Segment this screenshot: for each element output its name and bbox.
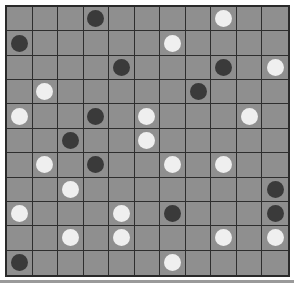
board-cell[interactable] xyxy=(84,80,110,104)
board-cell[interactable] xyxy=(109,202,135,226)
board-cell[interactable] xyxy=(58,129,84,153)
board-cell[interactable] xyxy=(109,153,135,177)
white-stone-icon[interactable] xyxy=(36,156,53,173)
board-cell[interactable] xyxy=(109,31,135,55)
black-stone-icon[interactable] xyxy=(164,205,181,222)
board-cell[interactable] xyxy=(109,80,135,104)
white-stone-icon[interactable] xyxy=(267,59,284,76)
board-cell[interactable] xyxy=(211,202,237,226)
board-cell[interactable] xyxy=(160,129,186,153)
board-cell[interactable] xyxy=(33,7,59,31)
board-cell[interactable] xyxy=(237,31,263,55)
white-stone-icon[interactable] xyxy=(138,108,155,125)
board-cell[interactable] xyxy=(135,251,161,275)
board-cell[interactable] xyxy=(7,7,33,31)
board-cell[interactable] xyxy=(211,153,237,177)
board-cell[interactable] xyxy=(109,104,135,128)
board-cell[interactable] xyxy=(84,202,110,226)
board-cell[interactable] xyxy=(135,226,161,250)
board-cell[interactable] xyxy=(58,178,84,202)
board-cell[interactable] xyxy=(186,153,212,177)
board-cell[interactable] xyxy=(211,56,237,80)
board-cell[interactable] xyxy=(186,56,212,80)
board-cell[interactable] xyxy=(211,7,237,31)
board-cell[interactable] xyxy=(262,80,288,104)
black-stone-icon[interactable] xyxy=(11,254,28,271)
white-stone-icon[interactable] xyxy=(36,83,53,100)
board-cell[interactable] xyxy=(7,178,33,202)
black-stone-icon[interactable] xyxy=(190,83,207,100)
board-cell[interactable] xyxy=(109,56,135,80)
board-cell[interactable] xyxy=(84,251,110,275)
board-cell[interactable] xyxy=(135,80,161,104)
board-cell[interactable] xyxy=(211,226,237,250)
board-cell[interactable] xyxy=(160,202,186,226)
white-stone-icon[interactable] xyxy=(164,254,181,271)
board-cell[interactable] xyxy=(211,251,237,275)
board-cell[interactable] xyxy=(160,226,186,250)
board-cell[interactable] xyxy=(186,202,212,226)
board-cell[interactable] xyxy=(7,226,33,250)
board-cell[interactable] xyxy=(211,129,237,153)
board-cell[interactable] xyxy=(237,178,263,202)
board-cell[interactable] xyxy=(237,153,263,177)
white-stone-icon[interactable] xyxy=(113,229,130,246)
board-cell[interactable] xyxy=(262,202,288,226)
board-cell[interactable] xyxy=(262,251,288,275)
board-cell[interactable] xyxy=(7,251,33,275)
board-cell[interactable] xyxy=(84,104,110,128)
board-cell[interactable] xyxy=(135,31,161,55)
board-cell[interactable] xyxy=(84,129,110,153)
white-stone-icon[interactable] xyxy=(62,181,79,198)
board-cell[interactable] xyxy=(109,226,135,250)
board-cell[interactable] xyxy=(33,80,59,104)
board-cell[interactable] xyxy=(186,104,212,128)
board-cell[interactable] xyxy=(160,31,186,55)
board-cell[interactable] xyxy=(84,31,110,55)
board-cell[interactable] xyxy=(7,56,33,80)
board-cell[interactable] xyxy=(33,251,59,275)
white-stone-icon[interactable] xyxy=(215,10,232,27)
white-stone-icon[interactable] xyxy=(267,229,284,246)
board-cell[interactable] xyxy=(58,31,84,55)
board-cell[interactable] xyxy=(7,129,33,153)
board-cell[interactable] xyxy=(211,178,237,202)
board-cell[interactable] xyxy=(237,129,263,153)
board-cell[interactable] xyxy=(33,202,59,226)
black-stone-icon[interactable] xyxy=(215,59,232,76)
board-cell[interactable] xyxy=(135,178,161,202)
board-cell[interactable] xyxy=(211,80,237,104)
white-stone-icon[interactable] xyxy=(215,156,232,173)
board-cell[interactable] xyxy=(262,104,288,128)
board-cell[interactable] xyxy=(33,31,59,55)
board-cell[interactable] xyxy=(135,56,161,80)
board-cell[interactable] xyxy=(211,31,237,55)
board-cell[interactable] xyxy=(33,153,59,177)
board-cell[interactable] xyxy=(7,80,33,104)
board-cell[interactable] xyxy=(186,129,212,153)
board-cell[interactable] xyxy=(262,153,288,177)
board-cell[interactable] xyxy=(186,31,212,55)
black-stone-icon[interactable] xyxy=(87,156,104,173)
white-stone-icon[interactable] xyxy=(241,108,258,125)
board-cell[interactable] xyxy=(160,153,186,177)
board-cell[interactable] xyxy=(186,7,212,31)
board-cell[interactable] xyxy=(160,80,186,104)
black-stone-icon[interactable] xyxy=(11,35,28,52)
board-cell[interactable] xyxy=(237,202,263,226)
board-cell[interactable] xyxy=(58,202,84,226)
board-cell[interactable] xyxy=(160,178,186,202)
board-cell[interactable] xyxy=(135,129,161,153)
board-cell[interactable] xyxy=(7,153,33,177)
board-cell[interactable] xyxy=(237,251,263,275)
board-cell[interactable] xyxy=(58,56,84,80)
board-cell[interactable] xyxy=(211,104,237,128)
board-cell[interactable] xyxy=(84,7,110,31)
black-stone-icon[interactable] xyxy=(87,108,104,125)
board-cell[interactable] xyxy=(135,202,161,226)
board-cell[interactable] xyxy=(262,7,288,31)
black-stone-icon[interactable] xyxy=(62,132,79,149)
white-stone-icon[interactable] xyxy=(164,35,181,52)
board-cell[interactable] xyxy=(109,7,135,31)
board-cell[interactable] xyxy=(262,56,288,80)
